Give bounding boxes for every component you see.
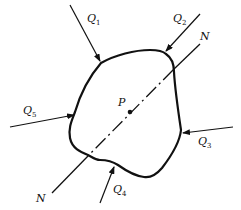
- force-q4: Q4: [100, 167, 127, 203]
- force-q3-arrow: [183, 127, 233, 133]
- force-q2-label: Q2: [173, 12, 187, 27]
- point-p-dot: [128, 110, 133, 115]
- force-q5-arrow: [10, 115, 74, 127]
- force-q1-label: Q1: [87, 12, 101, 27]
- force-q4-label: Q4: [113, 183, 127, 198]
- force-diagram: P N N Q1 Q2 Q3 Q4 Q5: [0, 0, 241, 210]
- axis-segment-top: [173, 44, 200, 70]
- point-p-label: P: [117, 96, 126, 109]
- force-q3: Q3: [183, 127, 233, 150]
- force-q5: Q5: [10, 104, 74, 127]
- axis-segment-bottom: [52, 156, 88, 193]
- force-q5-label: Q5: [23, 104, 37, 119]
- force-q4-arrow: [100, 167, 114, 203]
- axis-label-bottom: N: [35, 192, 46, 205]
- axis-label-top: N: [199, 30, 210, 43]
- force-q2: Q2: [166, 12, 200, 51]
- force-q3-label: Q3: [198, 135, 212, 150]
- force-q1: Q1: [70, 5, 101, 61]
